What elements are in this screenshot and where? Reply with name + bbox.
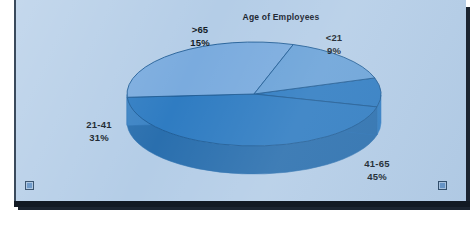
selection-handle-bottom-right[interactable] <box>438 181 447 190</box>
pie-chart[interactable]: Age of Employees >65 15% <21 9% 21-41 31… <box>16 0 466 205</box>
slice-label-lt21-percent: 9% <box>308 45 360 58</box>
slice-label-gt65-name: >65 <box>174 24 226 37</box>
slice-label-41-65: 41-65 45% <box>346 158 408 183</box>
chart-title: Age of Employees <box>196 12 366 22</box>
slide-bottom-edge <box>14 201 470 207</box>
slice-label-21-41-percent: 31% <box>68 132 130 145</box>
slice-label-gt65-percent: 15% <box>174 37 226 50</box>
slide-frame: Age of Employees >65 15% <21 9% 21-41 31… <box>14 0 466 205</box>
slice-label-21-41-name: 21-41 <box>68 119 130 132</box>
slice-label-21-41: 21-41 31% <box>68 119 130 144</box>
slice-label-lt21: <21 9% <box>308 32 360 57</box>
slice-label-41-65-percent: 45% <box>346 171 408 184</box>
selection-handle-bottom-left[interactable] <box>25 181 34 190</box>
slide-canvas: Age of Employees >65 15% <21 9% 21-41 31… <box>0 0 472 235</box>
slice-label-gt65: >65 15% <box>174 24 226 49</box>
slice-label-lt21-name: <21 <box>308 32 360 45</box>
slice-label-41-65-name: 41-65 <box>346 158 408 171</box>
